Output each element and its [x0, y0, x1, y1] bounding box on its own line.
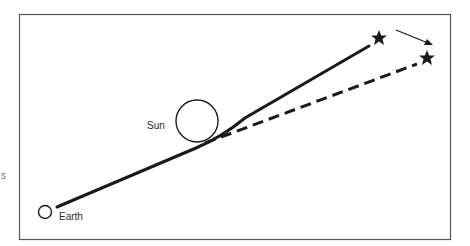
diagram-canvas	[0, 0, 470, 246]
apparent-line-dashed	[205, 64, 417, 143]
earth-circle	[39, 206, 52, 219]
margin-text-fragment: s	[1, 171, 6, 181]
shift-arrow-line	[396, 30, 428, 43]
star-apparent-icon	[419, 50, 435, 65]
star-actual-icon	[371, 30, 387, 45]
light-path-solid	[57, 46, 369, 207]
sun-circle	[176, 100, 218, 142]
sun-label: Sun	[147, 121, 165, 131]
earth-label: Earth	[59, 212, 83, 222]
